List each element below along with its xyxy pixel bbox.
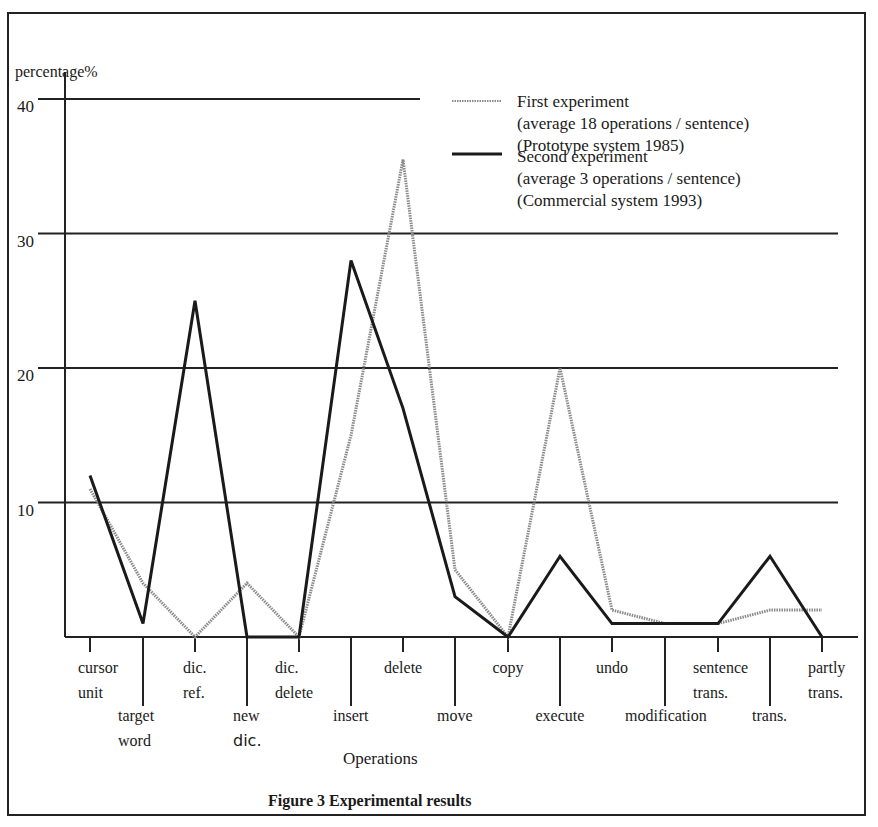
legend-second-line2: (average 3 operations / sentence)	[517, 168, 741, 190]
y-tick-label: 30	[17, 232, 34, 252]
x-category-label: targetword	[118, 706, 154, 750]
x-category-label: trans.	[752, 706, 787, 725]
legend-first-line2: (average 18 operations / sentence)	[517, 113, 749, 135]
x-category-label: undo	[596, 658, 628, 677]
legend-second-experiment: Second experiment (average 3 operations …	[517, 146, 741, 212]
legend-second-line3: (Commercial system 1993)	[517, 190, 741, 212]
y-axis-title: percentage%	[15, 62, 98, 81]
x-category-label: copy	[493, 658, 524, 677]
x-category-label: delete	[384, 658, 422, 677]
x-category-label: insert	[333, 706, 369, 725]
x-axis-title: Operations	[343, 749, 418, 768]
x-category-label: modification	[625, 706, 707, 725]
figure-caption: Figure 3 Experimental results	[268, 792, 471, 810]
x-category-label: move	[437, 706, 473, 725]
legend-first-line1: First experiment	[517, 91, 749, 113]
x-category-label: partlytrans.	[808, 658, 845, 702]
x-category-label: cursorunit	[78, 658, 118, 702]
x-category-label: execute	[536, 706, 585, 725]
y-tick-label: 10	[17, 501, 34, 521]
legend-swatches	[452, 101, 502, 154]
x-category-label: dic.delete	[275, 658, 313, 702]
legend-second-line1: Second experiment	[517, 146, 741, 168]
x-category-label: dic.ref.	[183, 658, 207, 702]
x-category-label: newdic.	[233, 706, 261, 750]
y-tick-label: 20	[17, 366, 34, 386]
series-lines	[90, 160, 822, 637]
x-category-label: sentencetrans.	[693, 658, 748, 702]
y-tick-label: 40	[17, 97, 34, 117]
